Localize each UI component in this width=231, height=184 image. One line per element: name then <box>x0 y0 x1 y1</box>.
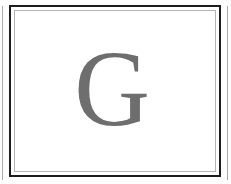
letter-plate: G <box>15 11 215 171</box>
drop-cap-letter: G <box>74 45 150 134</box>
frame-white-gap: G <box>11 7 219 175</box>
page-edge-rule-left <box>2 6 3 180</box>
page-edge-rule-right <box>227 6 228 180</box>
scanned-page: G <box>0 0 231 184</box>
inner-light-frame: G <box>14 10 216 172</box>
outer-dark-frame: G <box>9 5 221 177</box>
